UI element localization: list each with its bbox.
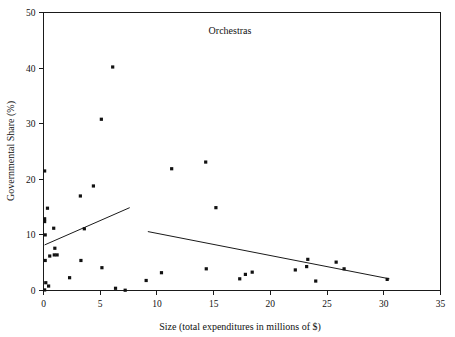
data-point (43, 288, 46, 291)
large-orchestras-fit (148, 232, 390, 279)
x-tick-label-5: 5 (98, 299, 103, 309)
y-tick-label-30: 30 (26, 119, 36, 129)
data-point (238, 277, 241, 280)
data-point (46, 207, 49, 210)
data-point (100, 266, 103, 269)
data-point (44, 281, 47, 284)
data-point (43, 220, 46, 223)
data-point (43, 217, 46, 220)
x-tick-label-15: 15 (209, 299, 219, 309)
data-point (170, 167, 173, 170)
data-point (214, 206, 217, 209)
small-orchestras-fit (45, 208, 130, 245)
data-point (145, 279, 148, 282)
axis-ticks (39, 13, 441, 296)
y-tick-label-40: 40 (26, 64, 36, 74)
x-tick-label-30: 30 (379, 299, 389, 309)
y-tick-label-20: 20 (26, 175, 36, 185)
data-point (44, 233, 47, 236)
data-point (205, 267, 208, 270)
trend-lines (45, 208, 390, 279)
data-point (335, 261, 338, 264)
data-point (79, 259, 82, 262)
data-point (48, 254, 51, 257)
y-tick-label-10: 10 (26, 230, 36, 240)
chart-container: 0510152025303501020304050 Orchestras Siz… (0, 0, 455, 337)
data-point (305, 265, 308, 268)
data-point (342, 267, 345, 270)
data-point (160, 271, 163, 274)
data-point (83, 227, 86, 230)
axes (44, 13, 441, 291)
y-axis-label: Governmental Share (%) (5, 101, 17, 201)
x-tick-label-0: 0 (41, 299, 46, 309)
chart-title: Orchestras (209, 25, 252, 36)
data-point (314, 279, 317, 282)
data-points (43, 65, 389, 291)
data-point (52, 227, 55, 230)
scatter-plot-svg: 0510152025303501020304050 Orchestras Siz… (0, 0, 455, 337)
data-point (251, 271, 254, 274)
data-point (114, 287, 117, 290)
data-point (124, 289, 127, 292)
data-point (53, 253, 56, 256)
data-point (56, 253, 59, 256)
x-tick-label-25: 25 (322, 299, 332, 309)
data-point (306, 258, 309, 261)
x-tick-label-35: 35 (436, 299, 446, 309)
data-point (244, 273, 247, 276)
y-tick-label-50: 50 (26, 8, 36, 18)
x-tick-label-10: 10 (152, 299, 162, 309)
data-point (204, 160, 207, 163)
data-point (53, 247, 56, 250)
data-point (44, 259, 47, 262)
y-tick-label-0: 0 (31, 286, 36, 296)
data-point (92, 184, 95, 187)
data-point (294, 268, 297, 271)
data-point (68, 276, 71, 279)
data-point (47, 284, 50, 287)
x-tick-label-20: 20 (266, 299, 276, 309)
data-point (79, 194, 82, 197)
data-point (386, 278, 389, 281)
data-point (100, 118, 103, 121)
axis-tick-labels: 0510152025303501020304050 (26, 8, 446, 309)
data-point (111, 65, 114, 68)
data-point (43, 169, 46, 172)
x-axis-label: Size (total expenditures in millions of … (159, 321, 321, 333)
